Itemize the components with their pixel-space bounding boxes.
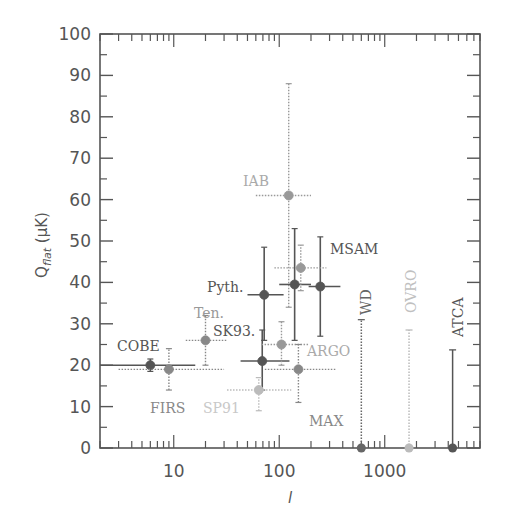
label-atca: ATCA	[450, 297, 466, 338]
y-axis-title-sub: flat	[41, 247, 54, 266]
data-point-cobe	[100, 359, 195, 371]
y-tick-label: 60	[69, 190, 91, 210]
label-iab: IAB	[243, 173, 269, 189]
label-ovro: OVRO	[403, 270, 419, 313]
label-sp91: SP91	[203, 400, 240, 416]
upper-limit-ovro	[405, 330, 414, 452]
y-tick-label: 30	[69, 314, 91, 334]
x-axis-title: l	[288, 489, 293, 507]
y-axis-title-unit: (μK)	[33, 212, 51, 248]
x-tick-label: 10	[163, 461, 185, 481]
data-series	[100, 84, 457, 453]
y-tick-label: 0	[80, 438, 91, 458]
y-tick-label: 80	[69, 107, 91, 127]
data-point-sk93	[241, 330, 290, 390]
axes: 0102030405060708090100101001000	[59, 24, 480, 481]
data-point-firs	[119, 349, 224, 390]
label-wd: WD	[358, 289, 374, 315]
y-tick-label: 10	[69, 397, 91, 417]
y-axis-title: Qflat (μK)	[33, 212, 54, 278]
label-firs: FIRS	[150, 400, 185, 416]
label-max: MAX	[309, 413, 343, 429]
label-cobe: COBE	[117, 338, 160, 354]
x-tick-label: 100	[263, 461, 295, 481]
data-point-argo	[262, 322, 309, 365]
label-pyth: Pyth.	[207, 279, 243, 295]
y-tick-label: 40	[69, 272, 91, 292]
label-sk93: SK93.	[213, 323, 255, 339]
y-axis-title-q: Q	[33, 266, 51, 278]
y-tick-label: 20	[69, 355, 91, 375]
data-point-msam	[279, 229, 311, 341]
label-ten: Ten.	[194, 305, 224, 321]
upper-limit-wd	[357, 320, 366, 453]
y-tick-label: 70	[69, 148, 91, 168]
label-msam: MSAM	[330, 241, 378, 257]
x-tick-label: 1000	[363, 461, 406, 481]
plot-frame	[100, 34, 480, 448]
y-tick-label: 90	[69, 65, 91, 85]
label-argo: ARGO	[306, 343, 350, 359]
upper-limit-atca	[448, 350, 457, 453]
y-tick-label: 100	[59, 24, 91, 44]
y-tick-label: 50	[69, 231, 91, 251]
cmb-anisotropy-chart: 0102030405060708090100101001000 COBEFIRS…	[0, 0, 505, 528]
